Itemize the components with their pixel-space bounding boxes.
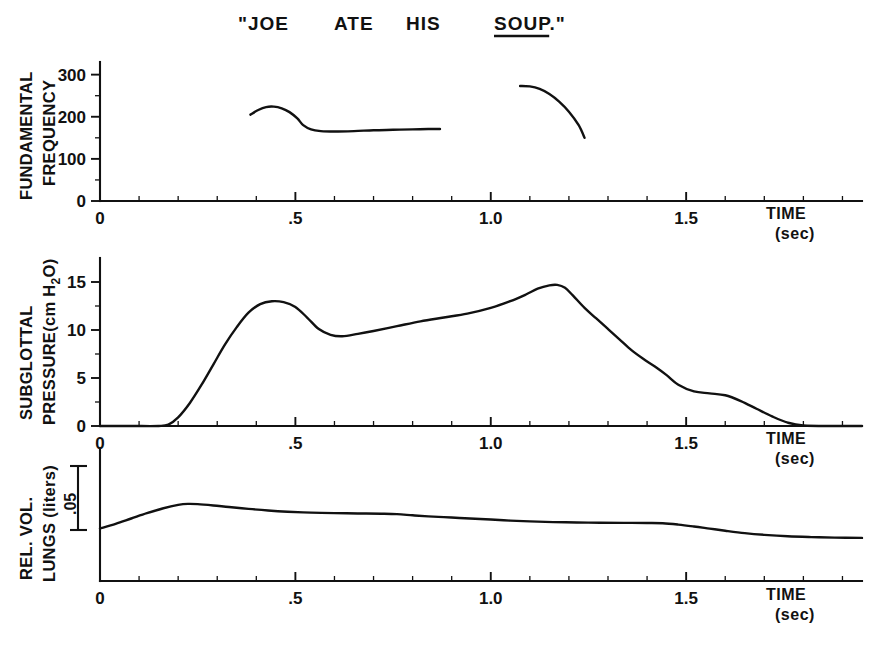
panel1-xlabel-sec: (sec) [775,225,815,242]
speech-physiology-figure: "JOE ATE HIS SOUP." FUNDAMENTAL FREQUENC… [0,0,870,651]
panel-relative-lung-volume: REL. VOL. LUNGS (liters) .05 0.51.01.5 T… [17,448,862,623]
panel3-axes: 0.51.01.5 [95,448,862,608]
x-tick-label: 1.5 [674,589,698,608]
x-tick-label: 0 [95,589,104,608]
utterance-word-ate: ATE [334,13,374,34]
panel2-xlabel-sec: (sec) [775,450,815,467]
trace-subglottal-pressure-trace [100,285,862,426]
utterance-word-joe: "JOE [238,13,289,34]
figure-canvas: "JOE ATE HIS SOUP." FUNDAMENTAL FREQUENC… [0,0,870,651]
y-tick-label: 200 [58,108,86,127]
utterance-word-soup: SOUP." [494,13,566,34]
x-tick-label: 1.0 [479,434,503,453]
panel2-ylabel-tail: O) [40,259,58,278]
x-tick-label: .5 [288,589,302,608]
x-tick-label: .5 [288,434,302,453]
y-tick-label: 0 [77,192,86,211]
panel3-xlabel-sec: (sec) [775,606,815,623]
panel1-axes: 0.51.01.50100200300 [58,62,862,228]
x-tick-label: 1.0 [479,209,503,228]
panel1-traces [250,86,584,138]
calibration-value-label: .05 [62,493,79,515]
panel2-ylabel-line2: PRESSURE(cm H2O) [40,259,63,425]
y-tick-label: 10 [67,321,86,340]
y-tick-label: 100 [58,150,86,169]
y-tick-label: 15 [67,273,86,292]
panel2-traces [100,285,862,426]
utterance-caption: "JOE ATE HIS SOUP." [238,13,566,36]
x-tick-label: .5 [288,209,302,228]
y-tick-label: 5 [77,369,86,388]
panel3-traces [100,504,862,538]
panel1-ylabel-line1: FUNDAMENTAL [17,71,35,200]
panel3-xlabel-time: TIME [766,586,806,603]
panel-fundamental-frequency: FUNDAMENTAL FREQUENCY 0.51.01.5010020030… [17,62,862,242]
panel1-xlabel-time: TIME [766,205,806,222]
panel-subglottal-pressure: SUBGLOTTAL PRESSURE(cm H2O) 0.51.01.5051… [17,258,862,467]
x-tick-label: 1.5 [674,434,698,453]
panel3-ylabel-line2: LUNGS (liters) [40,465,58,582]
trace-f0-segment-1 [250,107,440,132]
y-tick-label: 0 [77,417,86,436]
panel2-ylabel-line1: SUBGLOTTAL [17,305,35,420]
utterance-word-his: HIS [406,13,441,34]
panel1-ylabel-line2: FREQUENCY [40,80,58,186]
x-tick-label: 0 [95,209,104,228]
panel2-ylabel-subscript: 2 [49,277,63,284]
x-tick-label: 1.5 [674,209,698,228]
trace-lung-volume-trace [100,504,862,538]
panel2-xlabel-time: TIME [766,430,806,447]
y-tick-label: 300 [58,66,86,85]
trace-f0-segment-2 [520,86,584,138]
panel3-ylabel-line1: REL. VOL. [17,497,35,580]
panel3-calibration-bar: .05 [62,466,87,530]
panel2-ylabel-main: PRESSURE(cm H [40,284,58,425]
panel2-axes: 0.51.01.5051015 [67,258,862,453]
x-tick-label: 1.0 [479,589,503,608]
